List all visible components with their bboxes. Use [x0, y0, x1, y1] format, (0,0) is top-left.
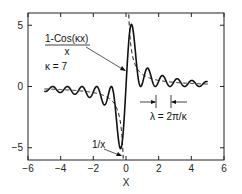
formula-denominator: x [65, 46, 70, 57]
inverse-arrow [104, 149, 119, 155]
x-tick-label: 4 [189, 163, 195, 174]
x-tick-label: 0 [123, 163, 129, 174]
y-tick-label: −5 [12, 142, 24, 153]
x-axis-label: X [123, 177, 130, 188]
kappa-label: κ = 7 [45, 61, 67, 72]
formula-numerator: 1-Cos(κx) [45, 33, 88, 44]
x-tick-label: −2 [88, 163, 100, 174]
x-tick-labels: −6−4−20246 [22, 163, 227, 174]
formula-arrow [86, 47, 124, 70]
chart: −6−4−20246 −505 X 1-Cos(κx) x κ = 7 1/x … [0, 0, 242, 194]
arrow-head-icon [120, 66, 126, 71]
x-tick-label: 6 [221, 163, 227, 174]
x-tick-label: −6 [22, 163, 34, 174]
y-tick-label: 5 [17, 20, 23, 31]
y-tick-labels: −505 [12, 20, 24, 154]
arrow-head-icon [151, 100, 156, 104]
x-tick-label: −4 [55, 163, 67, 174]
wavelength-label: λ = 2π/κ [150, 111, 188, 122]
x-tick-label: 2 [156, 163, 162, 174]
arrow-head-icon [171, 100, 176, 104]
inverse-label: 1/x [92, 139, 105, 150]
y-tick-label: 0 [17, 81, 23, 92]
